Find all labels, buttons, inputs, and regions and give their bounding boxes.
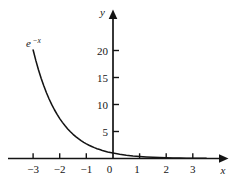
chart-background — [0, 0, 234, 188]
curve-label-base: e — [26, 37, 31, 49]
chart-canvas: −3 −2 −1 0 1 2 3 5 10 15 20 y x e −x — [0, 0, 234, 188]
x-tick-label: −2 — [54, 163, 66, 175]
curve-label-exponent: −x — [33, 36, 42, 45]
x-tick-label: −1 — [80, 163, 92, 175]
y-tick-label: 15 — [97, 72, 109, 84]
x-tick-label: 0 — [107, 163, 113, 175]
y-tick-label: 20 — [97, 45, 109, 57]
x-tick-label: −3 — [27, 163, 39, 175]
x-tick-label: 3 — [190, 163, 196, 175]
exponential-decay-figure: −3 −2 −1 0 1 2 3 5 10 15 20 y x e −x — [0, 0, 234, 188]
x-tick-label: 2 — [163, 163, 169, 175]
x-tick-label: 1 — [134, 163, 140, 175]
y-tick-label: 5 — [103, 126, 109, 138]
y-tick-label: 10 — [97, 99, 109, 111]
y-axis-label: y — [99, 6, 105, 18]
x-axis-label: x — [220, 164, 226, 176]
